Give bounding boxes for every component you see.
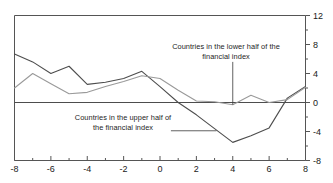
- annotation-upper-half-line1: Countries in the upper half of: [48, 113, 198, 123]
- annotation-lower-half-line1: Countries in the lower half of the: [150, 42, 302, 52]
- y-tick-label: 0: [313, 98, 318, 108]
- x-tick-label: 6: [267, 164, 272, 174]
- y-tick-label: 8: [313, 40, 318, 50]
- x-tick-label: -2: [120, 164, 128, 174]
- y-tick-label: 4: [313, 69, 318, 79]
- x-tick-label: 2: [194, 164, 199, 174]
- x-tick-label: -6: [47, 164, 55, 174]
- x-tick-label: 4: [230, 164, 235, 174]
- x-tick-label: -8: [10, 164, 18, 174]
- x-tick-label: 0: [157, 164, 162, 174]
- x-tick-label: 8: [303, 164, 308, 174]
- y-tick-label: -4: [313, 127, 321, 137]
- y-tick-label: -8: [313, 156, 321, 166]
- y-tick-label: 12: [313, 11, 323, 21]
- x-tick-label: -4: [83, 164, 91, 174]
- annotation-upper-half: Countries in the upper half of the finan…: [48, 113, 198, 132]
- chart-container: -8-6-4-20246812840-4-8 Countries in the …: [0, 0, 333, 183]
- annotation-lower-half-line2: financial index: [150, 52, 302, 62]
- series-line-lower-half: [15, 74, 306, 105]
- annotation-lower-half: Countries in the lower half of the finan…: [150, 42, 302, 61]
- line-chart-plot: -8-6-4-20246812840-4-8: [0, 0, 333, 183]
- annotation-upper-half-line2: the financial index: [48, 123, 198, 133]
